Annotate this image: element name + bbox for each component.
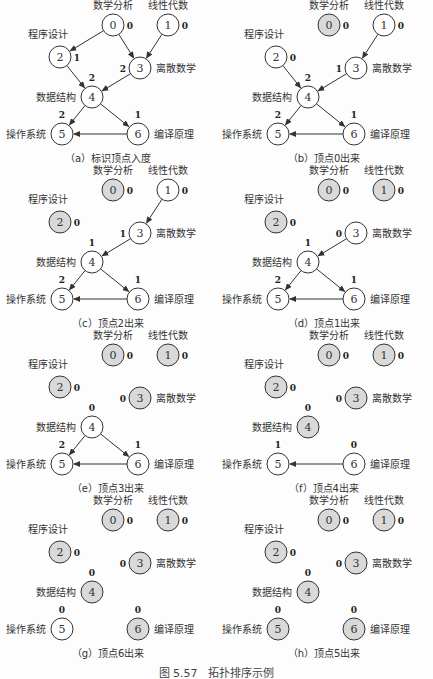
- node-2: 2程序设计0: [28, 523, 80, 563]
- svg-text:0: 0: [326, 19, 333, 32]
- svg-text:1: 1: [165, 514, 172, 527]
- svg-text:5: 5: [275, 293, 282, 306]
- course-label: 数学分析: [309, 329, 349, 341]
- node-4: 4数据结构0: [36, 568, 103, 603]
- svg-text:1: 1: [165, 184, 172, 197]
- course-label: 离散数学: [156, 392, 196, 404]
- indegree-label: 0: [74, 548, 80, 558]
- node-1: 1线性代数0: [148, 329, 188, 366]
- svg-text:6: 6: [135, 458, 142, 471]
- svg-text:3: 3: [353, 62, 360, 75]
- node-0: 0数学分析0: [309, 329, 349, 366]
- indegree-label: 0: [182, 186, 188, 196]
- course-label: 离散数学: [372, 557, 412, 569]
- svg-text:4: 4: [89, 421, 96, 434]
- course-label: 程序设计: [244, 28, 284, 40]
- indegree-label: 1: [275, 440, 281, 450]
- course-label: 线性代数: [148, 329, 188, 341]
- course-label: 操作系统: [6, 623, 46, 635]
- indegree-label: 0: [89, 403, 95, 413]
- node-2: 2程序设计0: [244, 28, 296, 68]
- indegree-label: 1: [135, 275, 141, 285]
- course-label: 操作系统: [222, 623, 262, 635]
- panel-caption: （f）顶点4出来: [216, 480, 432, 495]
- panel-caption: （b）顶点0出来: [216, 150, 432, 165]
- edge-4-6: [101, 104, 129, 127]
- svg-text:5: 5: [275, 458, 282, 471]
- course-label: 线性代数: [148, 0, 188, 11]
- edge-4-6: [317, 104, 345, 127]
- edge-4-5: [286, 271, 302, 290]
- svg-text:5: 5: [59, 458, 66, 471]
- indegree-label: 0: [398, 21, 404, 31]
- svg-text:6: 6: [135, 128, 142, 141]
- edge-1-3: [147, 34, 162, 58]
- svg-text:5: 5: [59, 293, 66, 306]
- course-label: 数学分析: [93, 164, 133, 176]
- course-label: 数据结构: [36, 91, 76, 103]
- svg-text:5: 5: [275, 623, 282, 636]
- indegree-label: 2: [120, 64, 126, 74]
- course-label: 数据结构: [36, 586, 76, 598]
- indegree-label: 1: [305, 238, 311, 248]
- node-0: 0数学分析0: [93, 494, 133, 531]
- indegree-label: 0: [336, 559, 342, 569]
- svg-text:2: 2: [273, 546, 280, 559]
- indegree-label: 2: [275, 275, 281, 285]
- svg-text:0: 0: [110, 514, 117, 527]
- course-label: 编译原理: [370, 458, 410, 470]
- node-1: 1线性代数0: [364, 494, 404, 531]
- edge-1-3: [147, 199, 162, 223]
- edge-1-3: [363, 34, 378, 58]
- panel-caption: （d）顶点1出来: [216, 315, 432, 330]
- course-label: 操作系统: [6, 128, 46, 140]
- edge-4-5: [70, 436, 86, 455]
- svg-text:4: 4: [305, 91, 312, 104]
- node-3: 3离散数学0: [336, 222, 412, 244]
- indegree-label: 2: [59, 275, 65, 285]
- node-2: 2程序设计0: [28, 193, 80, 233]
- svg-text:5: 5: [59, 128, 66, 141]
- indegree-label: 0: [182, 21, 188, 31]
- indegree-label: 0: [398, 351, 404, 361]
- node-5: 5操作系统2: [222, 275, 289, 310]
- course-label: 编译原理: [370, 128, 410, 140]
- node-3: 3离散数学1: [336, 57, 412, 79]
- indegree-label: 0: [336, 229, 342, 239]
- course-label: 编译原理: [370, 293, 410, 305]
- svg-text:0: 0: [326, 514, 333, 527]
- svg-text:6: 6: [351, 293, 358, 306]
- svg-text:0: 0: [110, 349, 117, 362]
- indegree-label: 0: [127, 351, 133, 361]
- course-label: 编译原理: [370, 623, 410, 635]
- indegree-label: 0: [305, 403, 311, 413]
- svg-text:3: 3: [353, 557, 360, 570]
- course-label: 数学分析: [309, 494, 349, 506]
- course-label: 离散数学: [156, 557, 196, 569]
- node-3: 3离散数学2: [120, 57, 196, 79]
- edge-0-2: [70, 31, 103, 51]
- svg-text:2: 2: [273, 381, 280, 394]
- node-3: 3离散数学0: [120, 552, 196, 574]
- indegree-label: 0: [343, 21, 349, 31]
- course-label: 数据结构: [252, 256, 292, 268]
- indegree-label: 0: [182, 351, 188, 361]
- svg-text:4: 4: [305, 256, 312, 269]
- indegree-label: 0: [343, 186, 349, 196]
- indegree-label: 1: [351, 110, 357, 120]
- svg-text:2: 2: [57, 216, 64, 229]
- edge-0-3: [119, 34, 134, 58]
- panel-g: 0数学分析01线性代数02程序设计03离散数学04数据结构05操作系统06编译原…: [0, 495, 216, 660]
- node-5: 5操作系统2: [6, 440, 73, 475]
- svg-text:4: 4: [89, 91, 96, 104]
- node-2: 2程序设计0: [244, 523, 296, 563]
- indegree-label: 0: [127, 186, 133, 196]
- panel-caption: （c）顶点2出来: [0, 315, 216, 330]
- svg-text:2: 2: [57, 381, 64, 394]
- panel-caption: （g）顶点6出来: [0, 645, 216, 660]
- svg-text:3: 3: [137, 62, 144, 75]
- indegree-label: 0: [290, 218, 296, 228]
- svg-text:4: 4: [305, 586, 312, 599]
- course-label: 离散数学: [372, 392, 412, 404]
- edge-3-4: [102, 239, 130, 256]
